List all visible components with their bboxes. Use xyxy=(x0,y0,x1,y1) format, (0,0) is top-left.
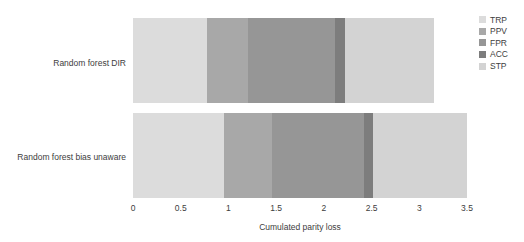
legend-label: FPR xyxy=(490,39,507,48)
bar-segment-fpr-0[interactable] xyxy=(248,18,336,103)
bar-segment-stp-0[interactable] xyxy=(345,18,434,103)
x-axis-tick-label: 0 xyxy=(131,203,136,213)
chart-container: Random forest DIR Random forest bias una… xyxy=(0,0,524,242)
legend-item[interactable]: TRP xyxy=(479,14,524,26)
legend-swatch-icon xyxy=(479,51,486,58)
bar-segment-stp-1[interactable] xyxy=(373,113,467,198)
bar-segment-acc-0[interactable] xyxy=(335,18,345,103)
legend-label: STP xyxy=(490,62,507,71)
x-axis-tick-label: 3 xyxy=(417,203,422,213)
legend-item[interactable]: FPR xyxy=(479,37,524,49)
stacked-bar-row-0 xyxy=(0,18,524,103)
x-axis-tick-label: 0.5 xyxy=(175,203,187,213)
legend-label: ACC xyxy=(490,50,508,59)
bar-segment-fpr-1[interactable] xyxy=(272,113,364,198)
legend-swatch-icon xyxy=(479,39,486,46)
x-axis: 00.511.522.533.5 xyxy=(133,203,467,217)
legend-label: PPV xyxy=(490,27,507,36)
legend: TRPPPVFPRACCSTP xyxy=(479,14,524,72)
x-axis-tick-label: 1.5 xyxy=(270,203,282,213)
bar-segment-trp-0[interactable] xyxy=(133,18,207,103)
legend-label: TRP xyxy=(490,16,507,25)
bar-segment-acc-1[interactable] xyxy=(364,113,374,198)
legend-swatch-icon xyxy=(479,63,486,70)
legend-item[interactable]: PPV xyxy=(479,26,524,38)
bar-segment-ppv-0[interactable] xyxy=(207,18,247,103)
bar-segment-trp-1[interactable] xyxy=(133,113,224,198)
legend-swatch-icon xyxy=(479,16,486,23)
x-axis-tick-label: 2.5 xyxy=(366,203,378,213)
stacked-bar-0[interactable] xyxy=(133,18,467,103)
stacked-bar-row-1 xyxy=(0,113,524,198)
x-axis-tick-label: 3.5 xyxy=(461,203,473,213)
x-axis-tick-label: 1 xyxy=(226,203,231,213)
bar-segment-ppv-1[interactable] xyxy=(224,113,273,198)
x-axis-tick-label: 2 xyxy=(321,203,326,213)
x-axis-title: Cumulated parity loss xyxy=(133,222,467,232)
stacked-bar-1[interactable] xyxy=(133,113,467,198)
legend-item[interactable]: STP xyxy=(479,60,524,72)
legend-item[interactable]: ACC xyxy=(479,49,524,61)
legend-swatch-icon xyxy=(479,28,486,35)
